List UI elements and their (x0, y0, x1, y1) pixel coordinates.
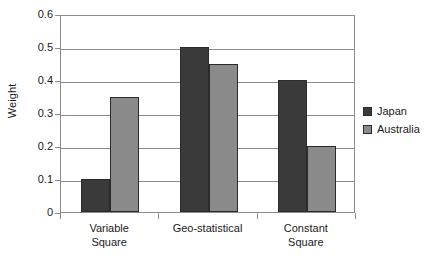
bar-japan-2 (278, 80, 307, 212)
x-category-label-line: Constant (251, 222, 361, 236)
x-tick-mark (60, 213, 61, 219)
bar-australia-1 (209, 64, 238, 213)
y-tick-label: 0.4 (13, 75, 53, 86)
plot-area (60, 15, 355, 213)
x-tick-mark (158, 213, 159, 219)
x-category-label-line: Square (54, 236, 164, 250)
bar-australia-0 (110, 97, 139, 213)
legend-label: Australia (377, 124, 420, 135)
bars-layer (61, 16, 354, 212)
y-tick-label: 0 (13, 207, 53, 218)
legend-swatch-icon (363, 107, 372, 116)
x-tick-mark (355, 213, 356, 219)
x-category-label-line: Variable (54, 222, 164, 236)
x-category-label-line: Square (251, 236, 361, 250)
y-tick-label: 0.2 (13, 141, 53, 152)
legend-swatch-icon (363, 125, 372, 134)
bar-chart: Weight 00.10.20.30.40.50.6 VariableSquar… (0, 0, 434, 260)
y-tick-label: 0.1 (13, 174, 53, 185)
y-tick-label: 0.6 (13, 9, 53, 20)
y-tick-label: 0.3 (13, 108, 53, 119)
bar-japan-0 (81, 179, 110, 212)
legend: JapanAustralia (363, 103, 420, 139)
bar-australia-2 (307, 146, 336, 212)
legend-item-australia[interactable]: Australia (363, 121, 420, 137)
x-category-label: VariableSquare (54, 222, 164, 249)
x-category-label: Geo-statistical (153, 222, 263, 236)
x-category-label: ConstantSquare (251, 222, 361, 249)
bar-japan-1 (180, 47, 209, 212)
y-tick-label: 0.5 (13, 42, 53, 53)
legend-item-japan[interactable]: Japan (363, 103, 420, 119)
x-tick-mark (257, 213, 258, 219)
x-category-label-line: Geo-statistical (153, 222, 263, 236)
legend-label: Japan (377, 106, 407, 117)
